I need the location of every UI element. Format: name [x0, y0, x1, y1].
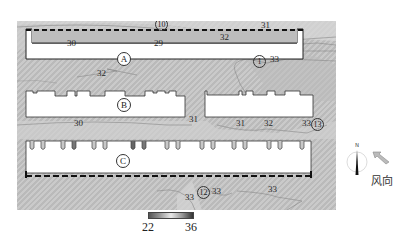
isotherm-label: 33 [212, 187, 221, 196]
isotherm-label: 31 [189, 115, 198, 124]
building-label-b: B [117, 98, 131, 112]
isotherm-label: 31 [261, 21, 270, 30]
isotherm-label: 33 [185, 193, 194, 202]
north-arrow-icon: N [346, 142, 368, 178]
wind-direction-label: 风向 [371, 172, 393, 188]
building-label-c: C [116, 154, 130, 168]
isotherm-label: 33 [268, 185, 277, 194]
legend-min-label: 22 [142, 220, 154, 235]
temperature-map: A B C 30 29 32 31 32 33 31 30 31 32 33 3… [17, 21, 336, 210]
legend-max-label: 36 [185, 220, 197, 235]
point-marker: 1 [253, 55, 266, 68]
isotherm-label: 32 [264, 119, 273, 128]
isotherm-label: 30 [74, 119, 83, 128]
isotherm-label: 32 [97, 69, 106, 78]
building-label-a: A [117, 52, 131, 66]
isotherm-label: 33 [302, 119, 311, 128]
isotherm-label: 32 [220, 33, 229, 42]
point-marker: 12 [197, 186, 210, 199]
isotherm-label: 31 [236, 119, 245, 128]
isotherm-label: 30 [67, 39, 76, 48]
north-label: N [355, 142, 359, 148]
isotherm-label: 29 [154, 39, 163, 48]
temperature-color-scale [148, 212, 194, 219]
point-marker: 13 [311, 118, 324, 131]
isotherm-lines [17, 21, 336, 210]
isotherm-label: 33 [270, 55, 279, 64]
